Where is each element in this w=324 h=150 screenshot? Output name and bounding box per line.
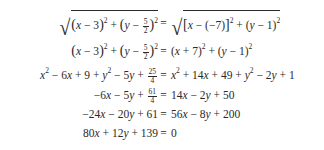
equation-3-rhs: x2 + 14x + 49 + y2 − 2y + 1 xyxy=(171,65,295,85)
equation-line-5: −24x − 20y + 61 = 56x − 8y + 200 xyxy=(0,104,324,124)
equation-1-rhs: √[x − (−7)]2 + (y − 1)2 xyxy=(171,10,280,44)
equation-line-4: −6x − 5y + 614 = 14x − 2y + 50 xyxy=(0,85,324,105)
equals-sign: = xyxy=(159,104,168,124)
equation-2-rhs: (x + 7)2 + (y − 1)2 xyxy=(171,41,252,61)
equals-sign: = xyxy=(159,85,168,105)
equation-line-3: x2 − 6x + 9 + y2 − 5y + 254 = x2 + 14x +… xyxy=(0,65,324,85)
equation-6-rhs: 0 xyxy=(171,123,177,143)
equation-1-lhs: √(x − 3)2 + (y − 52)2 xyxy=(59,10,158,44)
equation-5-lhs: −24x − 20y + 61 xyxy=(82,104,158,124)
equals-sign: = xyxy=(159,65,168,85)
equation-6-lhs: 80x + 12y + 139 xyxy=(83,123,158,143)
equation-3-lhs: x2 − 6x + 9 + y2 − 5y + 254 xyxy=(40,65,158,85)
equation-4-rhs: 14x − 2y + 50 xyxy=(171,85,234,105)
equation-line-2: (x − 3)2 + (y − 52)2 = (x + 7)2 + (y − 1… xyxy=(0,41,324,61)
equation-line-6: 80x + 12y + 139 = 0 xyxy=(0,123,324,143)
equals-sign: = xyxy=(159,41,168,61)
equals-sign: = xyxy=(159,10,168,36)
equals-sign: = xyxy=(159,123,168,143)
sqrt-symbol: √[x − (−7)]2 + (y − 1)2 xyxy=(171,10,280,38)
equation-4-lhs: −6x − 5y + 614 xyxy=(94,85,158,105)
equation-line-1: √(x − 3)2 + (y − 52)2 = √[x − (−7)]2 + (… xyxy=(0,10,324,36)
equation-2-lhs: (x − 3)2 + (y − 52)2 xyxy=(71,41,158,61)
sqrt-symbol: √(x − 3)2 + (y − 52)2 xyxy=(59,10,158,38)
equation-5-rhs: 56x − 8y + 200 xyxy=(171,104,240,124)
